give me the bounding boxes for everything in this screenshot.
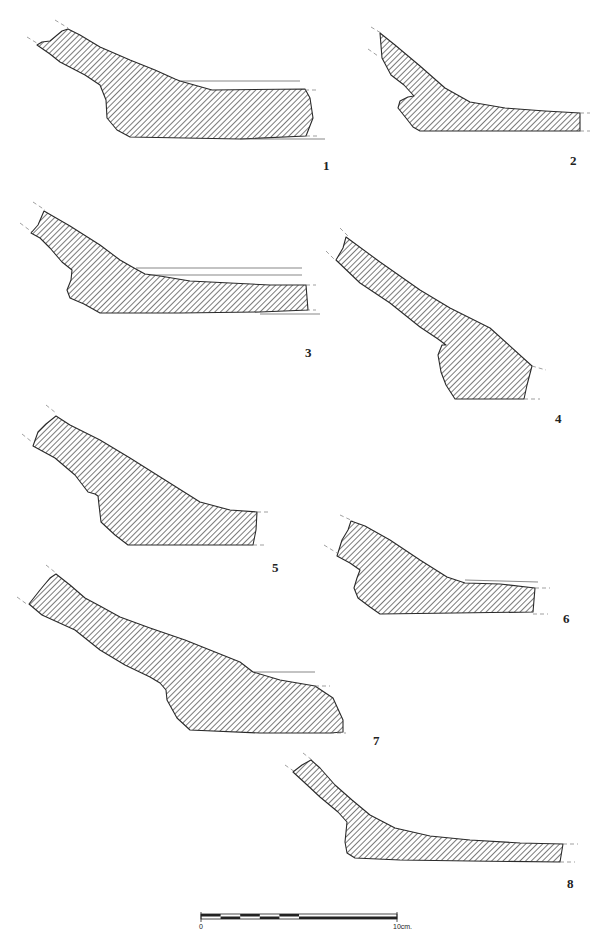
break-line	[532, 366, 546, 370]
profile-4: 4	[326, 228, 562, 426]
profile-5: 5	[22, 405, 279, 575]
break-line	[17, 597, 28, 605]
profile-plate: 1 2 3 4 5	[0, 0, 599, 950]
break-line	[368, 49, 378, 56]
profile-number-1: 1	[323, 158, 330, 173]
break-line	[46, 405, 56, 413]
sherd-section	[337, 521, 535, 614]
scale-segment	[279, 914, 299, 917]
scale-segment	[240, 914, 260, 917]
profile-6: 6	[324, 515, 570, 626]
break-line	[371, 27, 381, 33]
break-line	[324, 545, 337, 553]
profile-number-7: 7	[373, 733, 380, 748]
break-line	[326, 251, 334, 259]
break-line	[303, 753, 312, 760]
sherd-section	[33, 416, 257, 545]
sherd-section	[293, 760, 563, 862]
break-line	[22, 434, 32, 442]
sherd-section	[336, 237, 532, 399]
profile-number-3: 3	[305, 345, 312, 360]
break-line	[46, 565, 56, 573]
profile-number-4: 4	[555, 411, 562, 426]
profile-2: 2	[368, 27, 590, 168]
scale-segment	[201, 914, 221, 917]
sherd-section	[29, 574, 343, 733]
break-line	[340, 228, 348, 236]
scale-bar: 0 10cm.	[199, 912, 412, 930]
profile-number-5: 5	[272, 560, 279, 575]
profile-8: 8	[285, 753, 578, 891]
break-line	[55, 20, 68, 28]
sherd-section	[31, 211, 308, 313]
scale-segment	[299, 917, 397, 920]
scale-segment	[260, 917, 280, 920]
scale-start-label: 0	[199, 923, 203, 930]
profile-number-8: 8	[567, 876, 574, 891]
profile-number-2: 2	[570, 153, 577, 168]
profile-number-6: 6	[563, 611, 570, 626]
sherd-section	[380, 33, 580, 131]
profile-3: 3	[20, 202, 320, 360]
profile-7: 7	[17, 565, 380, 748]
break-line	[20, 223, 32, 232]
break-line	[33, 202, 45, 210]
profile-1: 1	[27, 20, 330, 173]
scale-segment	[221, 917, 241, 920]
sherd-section	[37, 29, 313, 139]
extension-line	[465, 580, 538, 582]
break-line	[340, 515, 353, 521]
scale-end-label: 10cm.	[393, 923, 412, 930]
